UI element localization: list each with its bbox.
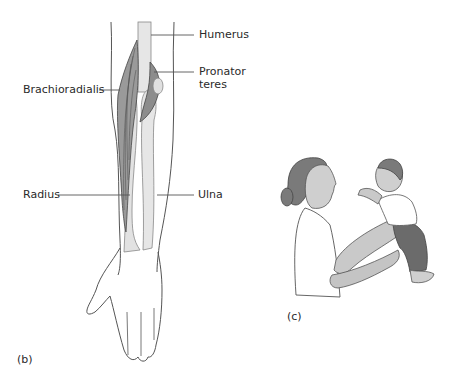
arm-outline-right (157, 22, 174, 272)
label-pronator-teres-line2: teres (199, 78, 227, 91)
adult-hair-bun (281, 188, 293, 206)
hand-outline (87, 248, 162, 361)
medial-epicondyle (153, 78, 163, 94)
label-pronator-teres-line1: Pronator (199, 65, 246, 78)
label-ulna: Ulna (198, 188, 223, 201)
label-radius: Radius (23, 188, 60, 201)
child-trousers (393, 221, 427, 272)
label-brachioradialis: Brachioradialis (23, 83, 105, 96)
child-shirt (378, 195, 417, 226)
panel-label-c: (c) (287, 310, 302, 323)
forearm-anatomy-illustration (0, 0, 462, 385)
label-humerus: Humerus (199, 28, 249, 41)
adult-lifting-child-illustration (281, 158, 434, 297)
adult-face (305, 165, 336, 209)
child-arms (358, 188, 382, 204)
child-feet (410, 270, 434, 283)
panel-label-b: (b) (17, 353, 33, 366)
